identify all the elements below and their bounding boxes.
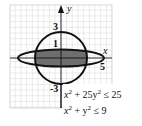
- y-axis-label: y: [66, 3, 72, 14]
- x-axis-label: x: [102, 45, 108, 56]
- tick-label-1: 1: [53, 38, 58, 49]
- tick-label-3: 3: [53, 21, 58, 32]
- tick-label-5: 5: [100, 61, 105, 72]
- tick-label-neg3: -3: [50, 83, 58, 94]
- inequality-ellipse: x2 + 25y2 ≤ 25: [63, 88, 122, 100]
- region-graph: y x 3 1 5 -3 x2 + 25y2 ≤ 25 x2 + y2 ≤ 9: [0, 0, 142, 126]
